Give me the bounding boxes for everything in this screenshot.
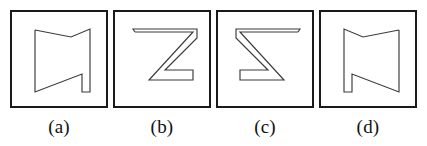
shape-panel-d[interactable] (319, 10, 417, 108)
shape-c-path (236, 29, 300, 80)
shape-label-row: (a) (b) (c) (d) (10, 110, 418, 144)
shape-panel-b[interactable] (113, 10, 211, 108)
shape-a-path (35, 29, 90, 92)
shape-d-path (344, 29, 399, 92)
shape-b-drawing (115, 12, 213, 110)
shape-label-a: (a) (10, 112, 108, 142)
figure-root: (a) (b) (c) (d) (0, 0, 427, 146)
shape-a-drawing (12, 12, 110, 110)
shape-label-d: (d) (319, 112, 417, 142)
shape-label-b: (b) (113, 112, 211, 142)
shape-b-path (133, 29, 197, 80)
shape-d-drawing (321, 12, 419, 110)
shape-c-drawing (218, 12, 316, 110)
shape-label-c: (c) (216, 112, 314, 142)
shape-panel-c[interactable] (216, 10, 314, 108)
shape-panel-a[interactable] (10, 10, 108, 108)
shape-panel-row (10, 10, 418, 110)
